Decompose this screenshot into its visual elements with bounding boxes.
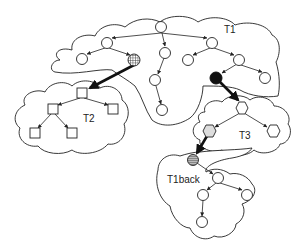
t1-node [234, 55, 245, 66]
t1back-node [198, 190, 209, 201]
t2-node [108, 104, 118, 114]
t1back-node [213, 173, 224, 184]
t1-node [183, 55, 194, 66]
tree-diagram: T1 T2 T3 T1back [0, 0, 305, 248]
t2-node [30, 128, 40, 138]
t2-root-node [77, 88, 87, 98]
t1back-node [197, 217, 208, 228]
t1-node [160, 48, 171, 59]
t3-root-node [236, 102, 248, 114]
t1-node [207, 38, 218, 49]
t1-node [77, 54, 88, 65]
t1-node [157, 105, 168, 116]
t1-node [260, 73, 271, 84]
t1-hatched-node [128, 54, 140, 66]
t1-root-node [156, 22, 167, 33]
t3-node [267, 125, 280, 137]
t3-gray-node [203, 125, 216, 137]
t1-black-node [210, 72, 222, 84]
t2-node [48, 104, 58, 114]
t2-cloud [15, 81, 128, 154]
t1back-label: T1back [167, 174, 201, 185]
t1back-root-node [188, 155, 199, 166]
t1-node [102, 38, 113, 49]
t2-label: T2 [83, 113, 95, 124]
t2-node [67, 128, 77, 138]
t1-label: T1 [224, 24, 236, 35]
t1back-node [242, 190, 253, 201]
t3-label: T3 [239, 130, 251, 141]
t1-node [150, 75, 161, 86]
